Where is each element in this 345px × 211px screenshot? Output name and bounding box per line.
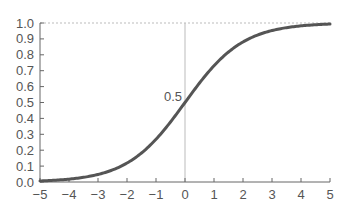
y-tick-label: 0.5 [16,95,34,110]
y-tick-label: 0.7 [16,63,34,78]
x-tick-label: 5 [326,187,333,202]
y-tick-label: 0.6 [16,79,34,94]
y-tick-label: 0.9 [16,31,34,46]
y-tick-label: 0.3 [16,127,34,142]
annotation-0-5: 0.5 [164,89,182,104]
y-tick-label: 0.0 [16,175,34,190]
y-tick-label: 1.0 [16,16,34,31]
x-tick-label: 0 [181,187,188,202]
sigmoid-chart: 0.00.10.20.30.40.50.60.70.80.91.0 −5−4−3… [0,0,345,211]
x-tick-label: 1 [210,187,217,202]
x-tick-label: 2 [239,187,246,202]
x-tick-label: −1 [149,187,164,202]
x-tick-label: −4 [62,187,77,202]
y-tick-label: 0.1 [16,159,34,174]
x-tick-label: −3 [91,187,106,202]
x-tick-label: 3 [268,187,275,202]
y-tick-label: 0.2 [16,143,34,158]
x-tick-label: 4 [297,187,304,202]
y-tick-label: 0.4 [16,111,34,126]
x-tick-label: −2 [120,187,135,202]
x-tick-label: −5 [33,187,48,202]
y-tick-label: 0.8 [16,47,34,62]
